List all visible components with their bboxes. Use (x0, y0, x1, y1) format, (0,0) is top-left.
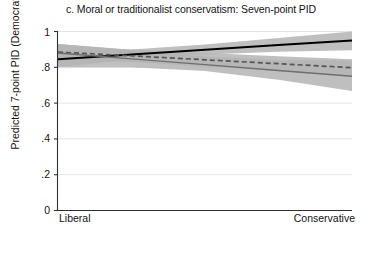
plot-area (0, 0, 382, 257)
confidence-bands (58, 32, 352, 91)
chart-figure: c. Moral or traditionalist conservatism:… (0, 0, 382, 257)
